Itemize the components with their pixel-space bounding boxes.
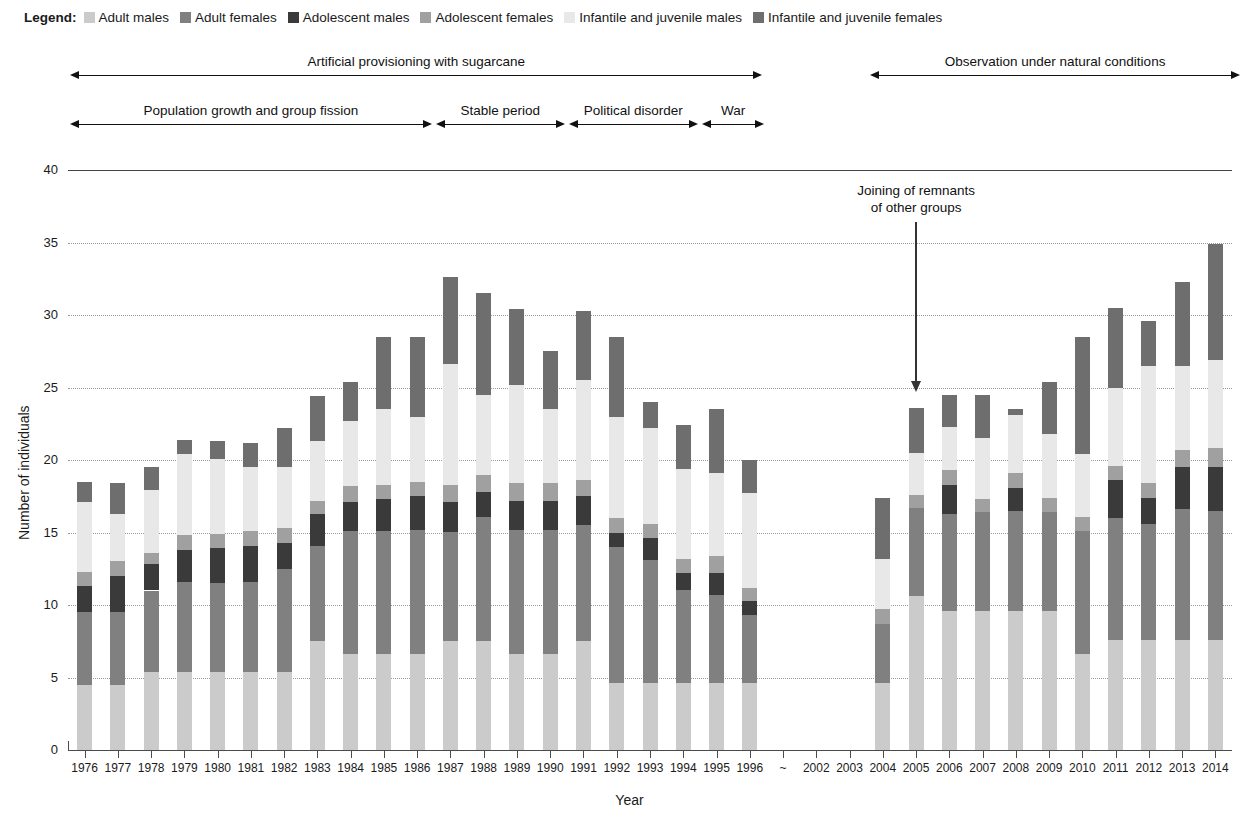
bar-2008[interactable] <box>1008 409 1023 750</box>
bar-segment <box>476 492 491 517</box>
bar-segment <box>643 428 658 524</box>
x-tick-1986 <box>417 750 418 758</box>
bar-segment <box>609 417 624 519</box>
bar-segment <box>343 486 358 502</box>
bar-segment <box>909 453 924 495</box>
bar-1992[interactable] <box>609 344 624 750</box>
bar-segment <box>1108 518 1123 640</box>
bar-segment <box>1108 308 1123 388</box>
bar-1987[interactable] <box>443 277 458 750</box>
y-tick-label-40: 40 <box>22 162 58 177</box>
bar-segment <box>77 572 92 587</box>
bar-segment <box>1175 467 1190 509</box>
bar-segment <box>609 547 624 683</box>
bar-segment <box>576 480 591 496</box>
bar-2004[interactable] <box>875 498 890 750</box>
bar-1991[interactable] <box>576 311 591 750</box>
bar-1981[interactable] <box>243 443 258 750</box>
bar-segment <box>875 559 890 610</box>
bar-segment <box>676 469 691 559</box>
bar-segment <box>676 590 691 683</box>
bar-segment <box>1008 511 1023 611</box>
bar-1982[interactable] <box>277 428 292 750</box>
bar-segment <box>110 576 125 612</box>
bar-segment <box>975 438 990 499</box>
bar-segment <box>509 309 524 384</box>
bar-segment <box>77 586 92 612</box>
bar-1979[interactable] <box>177 440 192 750</box>
bar-segment <box>543 530 558 655</box>
y-tick-label-0: 0 <box>22 742 58 757</box>
bar-segment <box>443 532 458 641</box>
bar-segment <box>443 277 458 364</box>
bar-2009[interactable] <box>1042 382 1057 750</box>
annotation-line1: Joining of remnants <box>766 182 1066 199</box>
bar-segment <box>975 499 990 512</box>
bar-segment <box>110 514 125 562</box>
bar-segment <box>742 683 757 750</box>
bar-segment <box>509 530 524 655</box>
bar-2007[interactable] <box>975 395 990 750</box>
bar-segment <box>543 351 558 409</box>
bar-2014[interactable] <box>1208 222 1223 750</box>
annotation-leader-line <box>915 222 916 382</box>
annotation-line2: of other groups <box>766 199 1066 216</box>
bar-segment <box>243 582 258 672</box>
bar-1986[interactable] <box>410 337 425 750</box>
bar-segment <box>942 427 957 471</box>
bar-segment <box>709 683 724 750</box>
bar-segment <box>476 475 491 492</box>
bar-segment <box>1208 640 1223 750</box>
bar-2010[interactable] <box>1075 337 1090 750</box>
bar-segment <box>210 459 225 534</box>
bar-segment <box>1042 434 1057 498</box>
bar-1983[interactable] <box>310 396 325 750</box>
x-tick-1978 <box>151 750 152 758</box>
bar-segment <box>1208 467 1223 511</box>
bar-segment <box>343 382 358 421</box>
bar-segment <box>1042 611 1057 750</box>
bar-1990[interactable] <box>543 351 558 750</box>
bar-1977[interactable] <box>110 483 125 750</box>
gridline-top <box>68 170 1232 171</box>
bar-1978[interactable] <box>144 467 159 750</box>
bar-segment <box>144 467 159 490</box>
x-tick-1980 <box>218 750 219 758</box>
bar-1988[interactable] <box>476 293 491 750</box>
bar-1993[interactable] <box>643 417 658 751</box>
bar-1989[interactable] <box>509 309 524 750</box>
x-tick-2002 <box>816 750 817 758</box>
bar-segment <box>376 654 391 750</box>
gridline-30 <box>68 315 1232 316</box>
y-tick-label-10: 10 <box>22 597 58 612</box>
x-tick-2011 <box>1116 750 1117 758</box>
bar-2005[interactable] <box>909 408 924 750</box>
bar-segment <box>1208 360 1223 448</box>
bar-1996[interactable] <box>742 460 757 750</box>
bar-1984[interactable] <box>343 382 358 750</box>
bar-segment <box>709 573 724 595</box>
bar-1994[interactable] <box>676 425 691 750</box>
bar-1985[interactable] <box>376 337 391 750</box>
x-tick-2003 <box>850 750 851 758</box>
bar-segment <box>1175 366 1190 450</box>
bar-1980[interactable] <box>210 441 225 750</box>
bar-segment <box>676 683 691 750</box>
x-tick-1995 <box>717 750 718 758</box>
bar-segment <box>343 654 358 750</box>
bar-1976[interactable] <box>77 482 92 750</box>
x-tick-1976 <box>85 750 86 758</box>
x-tick-1991 <box>583 750 584 758</box>
bar-2012[interactable] <box>1141 321 1156 750</box>
bar-2011[interactable] <box>1108 308 1123 750</box>
bar-segment <box>909 596 924 750</box>
bar-segment <box>1141 640 1156 750</box>
bar-segment <box>942 395 957 427</box>
bar-1995[interactable] <box>709 409 724 750</box>
bar-segment <box>1208 448 1223 467</box>
bar-2006[interactable] <box>942 395 957 750</box>
bar-segment <box>277 528 292 543</box>
x-tick-2007 <box>983 750 984 758</box>
bar-segment <box>1108 466 1123 481</box>
bar-2013[interactable] <box>1175 282 1190 750</box>
